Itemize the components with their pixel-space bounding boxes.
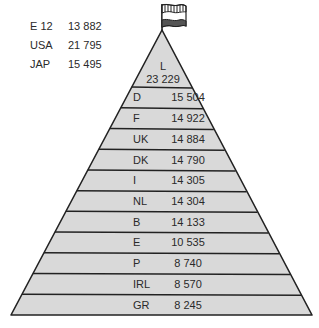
tier-value: 14 305 (171, 174, 205, 186)
tier-label: E (133, 236, 140, 248)
tier-value: 15 504 (171, 91, 205, 103)
tier-label: IRL (133, 278, 150, 290)
tier-label: P (133, 257, 140, 269)
tier-label: I (133, 174, 136, 186)
tier-divider (121, 108, 203, 109)
tier-label: D (133, 91, 141, 103)
tier-value: 14 884 (171, 133, 205, 145)
tier-value-top: 23 229 (146, 73, 180, 85)
tier-divider (110, 128, 214, 129)
tier-label: F (133, 112, 140, 124)
tier-value: 8 245 (174, 299, 202, 311)
tier-label: UK (133, 133, 149, 145)
tier-divider (132, 87, 192, 88)
tier-value: 10 535 (171, 236, 205, 248)
tier-divider (88, 170, 236, 171)
tier-value: 14 304 (171, 195, 205, 207)
tier-divider (66, 211, 258, 212)
tier-label: GR (133, 299, 150, 311)
tier-label: B (133, 216, 140, 228)
tier-label-top: L (160, 60, 166, 72)
pyramid-diagram: L23 229D15 504F14 922UK14 884DK14 790I14… (0, 0, 319, 328)
tier-label: NL (133, 195, 147, 207)
tier-divider (22, 294, 301, 295)
tier-label: DK (133, 154, 149, 166)
tier-divider (33, 274, 290, 275)
tier-divider (44, 253, 279, 254)
tier-value: 14 790 (171, 154, 205, 166)
tier-value: 14 133 (171, 216, 205, 228)
tier-divider (99, 149, 225, 150)
tier-divider (55, 232, 268, 233)
tier-value: 8 570 (174, 278, 202, 290)
tier-divider (77, 191, 247, 192)
flag-icon (162, 4, 186, 31)
tier-value: 14 922 (171, 112, 205, 124)
tier-value: 8 740 (174, 257, 202, 269)
